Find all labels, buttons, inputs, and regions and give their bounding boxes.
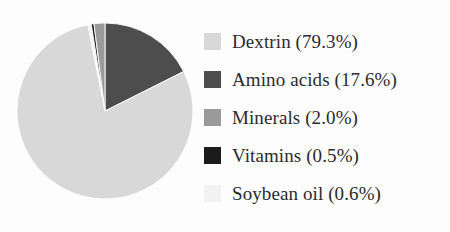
swatch-vitamins [204,147,221,164]
legend-label-vitamins: Vitamins (0.5%) [232,146,359,165]
legend-label-minerals: Minerals (2.0%) [232,108,358,127]
legend-label-soybean-oil: Soybean oil (0.6%) [232,184,381,203]
pie-slice-group [17,23,193,199]
legend-item-minerals[interactable]: Minerals (2.0%) [204,100,448,134]
legend-label-dextrin: Dextrin (79.3%) [232,32,358,51]
legend-item-soybean-oil[interactable]: Soybean oil (0.6%) [204,176,448,210]
swatch-minerals [204,109,221,126]
pie-chart-svg [16,22,194,200]
pie-chart-plot-area [16,22,194,200]
legend-label-amino-acids: Amino acids (17.6%) [232,70,397,89]
chart-legend: Dextrin (79.3%) Amino acids (17.6%) Mine… [204,24,448,210]
swatch-amino-acids [204,71,221,88]
legend-item-dextrin[interactable]: Dextrin (79.3%) [204,24,448,58]
swatch-soybean-oil [204,185,221,202]
legend-item-vitamins[interactable]: Vitamins (0.5%) [204,138,448,172]
pie-chart-figure: Dextrin (79.3%) Amino acids (17.6%) Mine… [0,0,450,232]
swatch-dextrin [204,33,221,50]
legend-item-amino-acids[interactable]: Amino acids (17.6%) [204,62,448,96]
